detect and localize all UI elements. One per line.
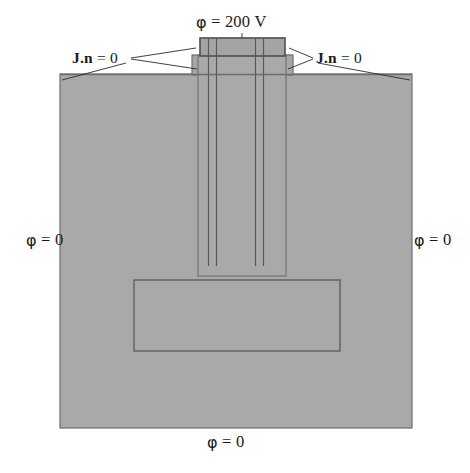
figure-canvas: φ = 200 V φ = 0 φ = 0 φ = 0 J.n = 0 J.n … — [0, 0, 470, 473]
flux-vector-symbol-left: J — [72, 49, 80, 66]
label-top-voltage-text: = 200 V — [207, 12, 267, 31]
phi-symbol-bottom: φ — [207, 433, 218, 452]
label-left-flux-text: = 0 — [93, 49, 118, 66]
boundary-condition-diagram — [0, 0, 470, 473]
label-left-flux: J.n = 0 — [72, 50, 118, 66]
top-electrode-cap — [200, 38, 285, 56]
phi-symbol-left: φ — [26, 231, 37, 250]
label-right-potential-text: = 0 — [425, 230, 452, 249]
label-top-voltage: φ = 200 V — [196, 14, 267, 31]
pillar-column — [198, 55, 286, 276]
phi-symbol-right: φ — [414, 231, 425, 250]
phi-symbol-top: φ — [196, 13, 207, 32]
label-right-flux: J.n = 0 — [316, 50, 362, 66]
flux-vector-symbol-right: J — [316, 49, 324, 66]
label-bottom-potential-text: = 0 — [218, 432, 245, 451]
label-bottom-potential: φ = 0 — [207, 434, 244, 451]
label-left-potential: φ = 0 — [26, 232, 63, 249]
label-right-flux-text: = 0 — [337, 49, 362, 66]
flux-normal-symbol-right: .n — [324, 49, 337, 66]
label-left-potential-text: = 0 — [37, 230, 64, 249]
label-right-potential: φ = 0 — [414, 232, 451, 249]
left-flux-leader-upper — [131, 48, 196, 58]
left-flux-leader-mid — [131, 59, 197, 69]
flux-normal-symbol-left: .n — [80, 49, 93, 66]
